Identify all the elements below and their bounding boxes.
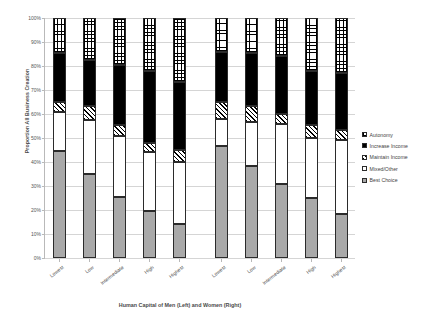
legend-item[interactable]: Mixed/Other (362, 165, 438, 172)
bar-segment[interactable] (173, 224, 186, 258)
x-tick-label: Lowest (210, 264, 226, 278)
bar-segment[interactable] (53, 18, 66, 53)
bar[interactable] (143, 18, 156, 258)
bar[interactable] (335, 18, 348, 258)
bar-segment[interactable] (215, 52, 228, 102)
legend-swatch-icon (362, 143, 367, 148)
legend-swatch-icon (362, 155, 367, 160)
bar-segment[interactable] (113, 136, 126, 197)
y-tick-label: 90% (31, 39, 41, 45)
bar-segment[interactable] (335, 140, 348, 213)
bar-segment[interactable] (83, 174, 96, 258)
legend-swatch-icon (362, 132, 367, 137)
bar[interactable] (275, 18, 288, 258)
legend-item[interactable]: Autonomy (362, 131, 438, 138)
bar-segment[interactable] (305, 138, 318, 198)
bar-segment[interactable] (245, 166, 258, 258)
x-tick-mark (311, 259, 312, 262)
legend-item[interactable]: Maintain Income (362, 154, 438, 161)
x-tick-mark (221, 259, 222, 262)
bar-segment[interactable] (113, 125, 126, 136)
bar-segment[interactable] (113, 197, 126, 258)
bar-segment[interactable] (143, 71, 156, 143)
y-tick-label: 60% (31, 111, 41, 117)
bar-segment[interactable] (143, 211, 156, 258)
bar-segment[interactable] (275, 124, 288, 184)
x-tick-mark (341, 259, 342, 262)
bar-segment[interactable] (245, 53, 258, 106)
legend-label: Best Choice (370, 177, 398, 183)
bar-segment[interactable] (275, 184, 288, 258)
x-tick-label: Lowest (48, 264, 64, 278)
x-tick-mark (119, 259, 120, 262)
bar-segment[interactable] (173, 150, 186, 162)
legend-item[interactable]: Best Choice (362, 177, 438, 184)
x-tick-label: High (304, 264, 316, 275)
bar-segment[interactable] (275, 114, 288, 124)
x-tick-mark (89, 259, 90, 262)
bar[interactable] (245, 18, 258, 258)
bar-segment[interactable] (335, 18, 348, 73)
legend-swatch-icon (362, 178, 367, 183)
x-tick-label: Low (245, 264, 256, 274)
y-tick-label: 0% (34, 255, 41, 261)
bar[interactable] (83, 18, 96, 258)
bar-segment[interactable] (245, 18, 258, 53)
y-tick-label: 80% (31, 63, 41, 69)
chart-legend: AutonomyIncrease IncomeMaintain IncomeMi… (362, 131, 438, 188)
bar-segment[interactable] (335, 73, 348, 129)
y-tick-label: 20% (31, 207, 41, 213)
y-tick-label: 100% (28, 15, 41, 21)
x-tick-label: High (142, 264, 154, 275)
bar-segment[interactable] (173, 82, 186, 150)
legend-item[interactable]: Increase Income (362, 142, 438, 149)
legend-label: Mixed/Other (370, 166, 398, 172)
bar-segment[interactable] (305, 198, 318, 258)
bar-segment[interactable] (215, 119, 228, 147)
x-tick-mark (251, 259, 252, 262)
bar[interactable] (53, 18, 66, 258)
bar-segment[interactable] (83, 120, 96, 174)
bar-segment[interactable] (275, 18, 288, 56)
x-tick-label: Highest (167, 264, 184, 279)
bar-segment[interactable] (83, 60, 96, 106)
bar-segment[interactable] (305, 71, 318, 125)
bar[interactable] (215, 18, 228, 258)
x-tick-label: Intermediate (261, 264, 287, 286)
bar-segment[interactable] (83, 106, 96, 120)
bar[interactable] (113, 18, 126, 258)
bar-segment[interactable] (305, 125, 318, 138)
bar-segment[interactable] (215, 18, 228, 52)
bar-segment[interactable] (335, 130, 348, 141)
bar-segment[interactable] (335, 214, 348, 258)
bar-segment[interactable] (53, 112, 66, 152)
bar-segment[interactable] (173, 162, 186, 224)
y-tick-label: 30% (31, 183, 41, 189)
bar-segment[interactable] (143, 18, 156, 71)
bar-segment[interactable] (143, 152, 156, 211)
bar-segment[interactable] (53, 151, 66, 258)
bar-series-container (45, 18, 355, 258)
bar-segment[interactable] (143, 143, 156, 153)
bar-segment[interactable] (53, 102, 66, 112)
bar-segment[interactable] (113, 65, 126, 125)
x-axis-tick-labels: LowestLowIntermediateHighHighestLowestLo… (44, 259, 354, 301)
x-tick-mark (179, 259, 180, 262)
bar-segment[interactable] (173, 18, 186, 82)
plot-area: 0%10%20%30%40%50%60%70%80%90%100% (44, 18, 355, 259)
stacked-bar-chart: Proportion All Business Creation 0%10%20… (0, 0, 439, 323)
bar-segment[interactable] (305, 18, 318, 71)
bar-segment[interactable] (83, 18, 96, 60)
bar[interactable] (173, 18, 186, 258)
bar[interactable] (305, 18, 318, 258)
bar-segment[interactable] (275, 56, 288, 114)
y-tick-label: 40% (31, 159, 41, 165)
legend-label: Autonomy (370, 132, 393, 138)
bar-segment[interactable] (53, 53, 66, 102)
bar-segment[interactable] (245, 122, 258, 165)
bar-segment[interactable] (215, 102, 228, 119)
bar-segment[interactable] (215, 146, 228, 258)
bar-segment[interactable] (113, 18, 126, 65)
x-tick-label: Low (83, 264, 94, 274)
bar-segment[interactable] (245, 106, 258, 123)
